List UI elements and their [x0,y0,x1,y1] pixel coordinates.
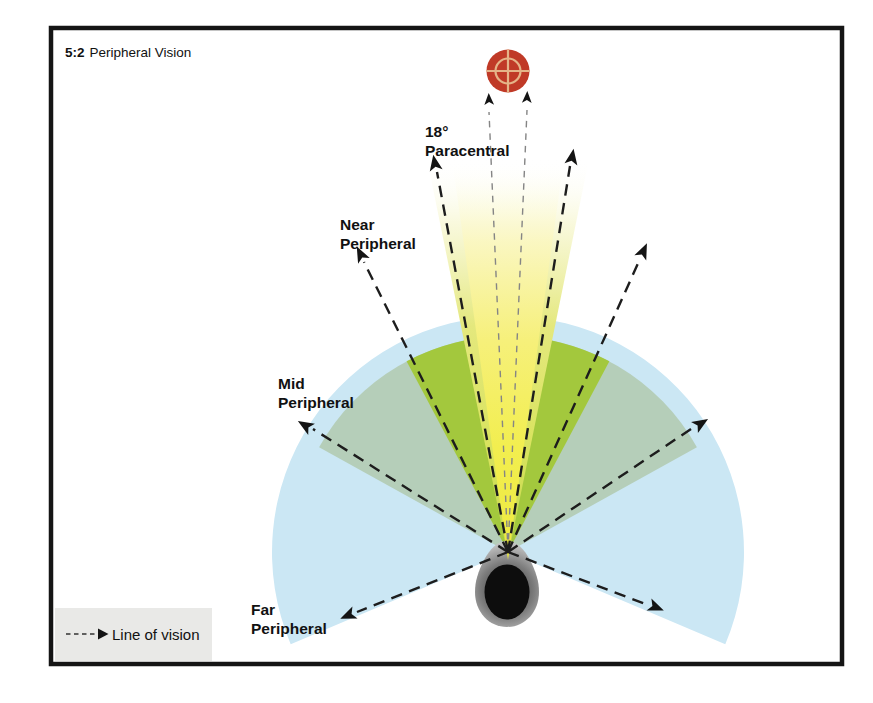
label-far-peripheral-line1: Far [251,601,275,618]
label-near-peripheral-line1: Near [340,216,374,233]
peripheral-vision-figure: 5:2Peripheral Vision [0,0,873,703]
legend-box: Line of vision [55,608,212,661]
figure-title: 5:2Peripheral Vision [65,45,191,60]
label-far-peripheral-line2: Peripheral [251,620,327,637]
fixation-target [487,50,530,93]
label-paracentral-degrees: 18° [425,123,448,140]
legend-line-of-vision-label: Line of vision [112,626,200,643]
label-paracentral: Paracentral [425,142,509,159]
figure-number: 5:2 [65,45,85,60]
label-mid-peripheral-line1: Mid [278,375,305,392]
label-mid-peripheral-line2: Peripheral [278,394,354,411]
pupil [485,565,530,620]
label-near-peripheral-line2: Peripheral [340,235,416,252]
peripheral-vision-diagram: 5:2Peripheral Vision [0,0,873,703]
figure-title-text: Peripheral Vision [90,45,192,60]
